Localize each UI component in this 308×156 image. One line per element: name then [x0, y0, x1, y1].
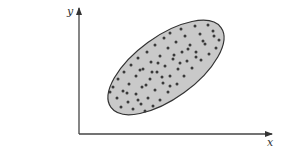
data-point — [149, 78, 152, 81]
x-axis-label: x — [267, 137, 273, 148]
data-point — [142, 68, 145, 71]
data-point — [189, 44, 192, 47]
data-point — [137, 99, 140, 102]
ellipse-region — [93, 2, 239, 132]
data-point — [199, 33, 202, 36]
data-point — [195, 56, 198, 59]
data-point — [154, 89, 157, 92]
data-point — [212, 30, 215, 33]
data-point — [152, 105, 155, 108]
data-point — [145, 84, 148, 87]
data-point — [135, 75, 138, 78]
data-point — [162, 82, 165, 85]
data-point — [140, 103, 143, 106]
data-point — [139, 69, 142, 72]
data-point — [154, 44, 157, 47]
data-point — [109, 91, 112, 94]
data-point — [159, 99, 162, 102]
data-point — [167, 91, 170, 94]
data-point — [169, 75, 172, 78]
data-point — [130, 64, 133, 67]
data-point — [157, 62, 160, 65]
data-point — [163, 37, 166, 40]
data-point — [128, 83, 131, 86]
data-point — [186, 60, 189, 63]
data-point — [176, 83, 179, 86]
data-point — [120, 106, 123, 109]
data-point — [159, 55, 162, 58]
data-point — [147, 97, 150, 100]
data-point — [132, 108, 135, 111]
data-point — [202, 40, 205, 43]
data-point — [144, 110, 147, 113]
data-point — [177, 68, 180, 71]
data-point — [191, 67, 194, 70]
data-point — [156, 71, 159, 74]
data-point — [141, 86, 144, 89]
data-point — [200, 59, 203, 62]
diagram: y x — [0, 0, 308, 156]
data-point — [117, 78, 120, 81]
data-point — [183, 75, 186, 78]
data-point — [181, 51, 184, 54]
data-point — [137, 57, 140, 60]
data-point — [169, 85, 172, 88]
data-point — [173, 54, 176, 57]
y-axis-label: y — [67, 6, 73, 17]
data-point — [204, 43, 207, 46]
data-point — [213, 35, 216, 38]
data-point — [180, 28, 183, 31]
data-point — [151, 71, 154, 74]
data-point — [135, 93, 138, 96]
data-point — [146, 51, 149, 54]
data-point — [126, 92, 129, 95]
data-point — [116, 97, 119, 100]
data-point — [122, 90, 125, 93]
data-point — [127, 101, 130, 104]
data-point — [179, 62, 182, 65]
data-point — [207, 24, 210, 27]
data-point — [112, 86, 115, 89]
data-point — [215, 47, 218, 50]
data-point — [169, 32, 172, 35]
data-point — [175, 41, 178, 44]
data-point — [161, 76, 164, 79]
data-point — [167, 47, 170, 50]
data-point — [208, 53, 211, 56]
plot-canvas — [0, 0, 308, 156]
data-point — [164, 65, 167, 68]
data-point — [123, 71, 126, 74]
data-point — [194, 25, 197, 28]
data-point — [150, 61, 153, 64]
data-point — [218, 39, 221, 42]
data-point — [172, 58, 175, 61]
data-point — [195, 51, 198, 54]
data-point — [187, 48, 190, 51]
data-point — [184, 35, 187, 38]
